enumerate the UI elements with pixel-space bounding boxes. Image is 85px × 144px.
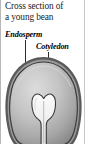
- bean-cross-section-figure: Cross section of a young bean Endosperm …: [0, 0, 85, 144]
- figure-title: Cross section of a young bean: [5, 1, 84, 23]
- bean-illustration: [1, 57, 85, 144]
- figure-title-line-1: Cross section of: [5, 1, 63, 11]
- label-cotyledon: Cotyledon: [36, 42, 69, 51]
- figure-title-line-2: a young bean: [5, 12, 53, 22]
- label-endosperm: Endosperm: [5, 30, 42, 39]
- bean-diagram-svg: [1, 57, 85, 144]
